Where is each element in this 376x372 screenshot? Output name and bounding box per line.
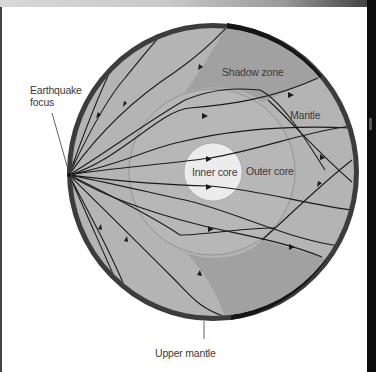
earth-cross-section-diagram [0,0,376,372]
shadow-zone-label: Shadow zone [222,66,283,78]
earthquake-focus-label: Earthquake focus [30,84,82,108]
inner-core-label: Inner core [192,166,237,178]
earthquake-focus-label-line1: Earthquake [30,84,82,96]
upper-mantle-label: Upper mantle [155,347,216,359]
outer-core-label: Outer core [246,165,294,177]
mantle-label: Mantle [290,109,320,121]
earthquake-focus-label-line2: focus [30,96,82,108]
earthquake-focus-point [67,173,71,177]
earthquake-focus-pointer [52,113,69,173]
